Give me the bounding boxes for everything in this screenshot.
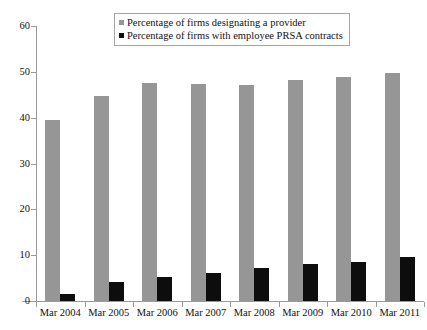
bar [351, 262, 366, 301]
legend-item: Percentage of firms designating a provid… [119, 16, 343, 29]
black-square-icon [119, 33, 124, 38]
legend-item: Percentage of firms with employee PRSA c… [119, 29, 343, 42]
x-axis-tick-label: Mar 2006 [133, 308, 182, 319]
bar [239, 85, 254, 301]
bar [94, 96, 109, 301]
x-axis-tick-mark [36, 302, 37, 307]
bar [109, 282, 124, 301]
x-axis-tick-label: Mar 2005 [85, 308, 134, 319]
y-axis-tick-label: 20 [0, 204, 30, 215]
y-axis-tick-label: 10 [0, 250, 30, 261]
bar [400, 257, 415, 301]
bar [142, 83, 157, 301]
y-axis-tick-label: 0 [0, 296, 30, 307]
bar [157, 277, 172, 301]
y-axis-tick-label: 50 [0, 67, 30, 78]
x-axis-tick-label: Mar 2010 [327, 308, 376, 319]
x-axis-tick-mark [327, 302, 328, 307]
x-axis-tick-mark [376, 302, 377, 307]
x-axis-tick-label: Mar 2004 [36, 308, 85, 319]
x-axis-tick-mark [85, 302, 86, 307]
y-axis-tick-label: 40 [0, 113, 30, 124]
chart-legend: Percentage of firms designating a provid… [114, 13, 350, 46]
x-axis-tick-label: Mar 2008 [230, 308, 279, 319]
bar [206, 273, 221, 301]
x-axis-tick-label: Mar 2011 [376, 308, 425, 319]
bar [254, 268, 269, 301]
bars-layer [36, 26, 424, 301]
bar [336, 77, 351, 301]
y-axis-tick-label: 30 [0, 159, 30, 170]
bar [60, 294, 75, 301]
y-axis-tick-label: 60 [0, 21, 30, 32]
bar [191, 84, 206, 301]
x-axis-tick-mark [279, 302, 280, 307]
x-axis-tick-mark [133, 302, 134, 307]
bar [303, 264, 318, 301]
gray-square-icon [119, 20, 124, 25]
bar [288, 80, 303, 301]
x-axis-tick-label: Mar 2007 [182, 308, 231, 319]
x-axis-tick-label: Mar 2009 [279, 308, 328, 319]
x-axis-line [22, 301, 424, 302]
x-axis-tick-mark [424, 302, 425, 307]
bar [385, 73, 400, 301]
bar [45, 120, 60, 301]
x-axis-tick-mark [182, 302, 183, 307]
legend-item-label: Percentage of firms with employee PRSA c… [127, 29, 343, 42]
bar-chart: 0102030405060 Mar 2004Mar 2005Mar 2006Ma… [0, 0, 427, 330]
x-axis-tick-mark [230, 302, 231, 307]
legend-item-label: Percentage of firms designating a provid… [127, 16, 306, 29]
